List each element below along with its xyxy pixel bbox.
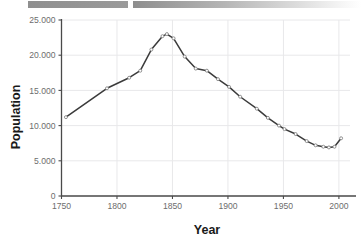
data-point-marker	[283, 128, 286, 131]
y-axis-title: Population	[9, 85, 23, 150]
x-tick-label: 1800	[107, 201, 126, 211]
y-tick-label: 10.000	[29, 121, 56, 131]
data-point-marker	[105, 87, 108, 90]
x-tick-labels-group: 175018001850190019502000	[52, 201, 349, 211]
data-point-marker	[333, 145, 336, 148]
y-tick-labels-group: 05.00010.00015.00020.00025.000	[29, 15, 56, 201]
y-tick-label: 0	[51, 191, 56, 201]
data-point-marker	[239, 95, 242, 98]
data-point-marker	[194, 67, 197, 70]
axis-spine	[62, 19, 357, 196]
gridlines-group	[62, 20, 351, 196]
data-point-marker	[150, 48, 153, 51]
data-point-marker	[216, 78, 219, 81]
banner-segment-right	[133, 1, 361, 8]
y-tick-label: 15.000	[29, 86, 56, 96]
data-point-marker	[305, 140, 308, 143]
x-tick-label: 1900	[218, 201, 237, 211]
data-point-marker	[183, 55, 186, 58]
data-point-marker	[172, 37, 175, 40]
data-point-marker	[266, 116, 269, 119]
banner-segment-left	[28, 1, 128, 8]
data-point-marker	[327, 146, 330, 149]
x-tick-label: 1750	[52, 201, 71, 211]
top-banner-strip	[0, 0, 363, 10]
x-axis-title: Year	[194, 223, 221, 237]
data-point-marker	[205, 69, 208, 72]
y-tick-label: 25.000	[29, 15, 56, 25]
data-point-marker	[255, 107, 258, 110]
data-point-marker	[64, 116, 67, 119]
x-tick-label: 2000	[329, 201, 348, 211]
y-tick-label: 20.000	[29, 50, 56, 60]
x-tick-label: 1850	[163, 201, 182, 211]
data-point-marker	[294, 133, 297, 136]
data-point-marker	[322, 145, 325, 148]
data-point-marker	[228, 85, 231, 88]
data-point-marker	[161, 35, 164, 38]
data-point-marker	[314, 144, 317, 147]
data-point-marker	[139, 69, 142, 72]
data-point-marker	[128, 76, 131, 79]
tickmarks-group	[59, 20, 339, 199]
x-tick-label: 1950	[274, 201, 293, 211]
data-point-marker	[277, 124, 280, 127]
data-point-marker	[165, 33, 168, 36]
chart-container: 05.00010.00015.00020.00025.000 175018001…	[0, 10, 363, 244]
y-tick-label: 5.000	[34, 156, 56, 166]
population-line-chart: 05.00010.00015.00020.00025.000 175018001…	[0, 10, 363, 244]
data-point-marker	[340, 137, 343, 140]
